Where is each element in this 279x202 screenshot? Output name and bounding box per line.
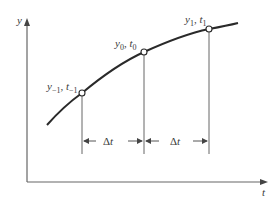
point-curr-label: y0, t0 (114, 37, 136, 52)
interval-2-label: Δt (170, 135, 181, 147)
point-curr-marker (141, 49, 147, 55)
y-axis-arrow-icon (24, 18, 30, 26)
point-prev-marker (79, 90, 85, 96)
y-axis (24, 18, 30, 182)
interval-1-label: Δt (103, 135, 114, 147)
x-axis (27, 179, 268, 185)
diagram-canvas: y t y−1, t−1 y0, t0 y1, t1 Δt Δt (0, 0, 279, 202)
point-next-label: y1, t1 (184, 13, 206, 28)
x-axis-label: t (262, 186, 266, 198)
point-next-marker (206, 26, 212, 32)
x-axis-arrow-icon (260, 179, 268, 185)
y-axis-label: y (16, 14, 22, 26)
point-prev-label: y−1, t−1 (46, 80, 77, 95)
